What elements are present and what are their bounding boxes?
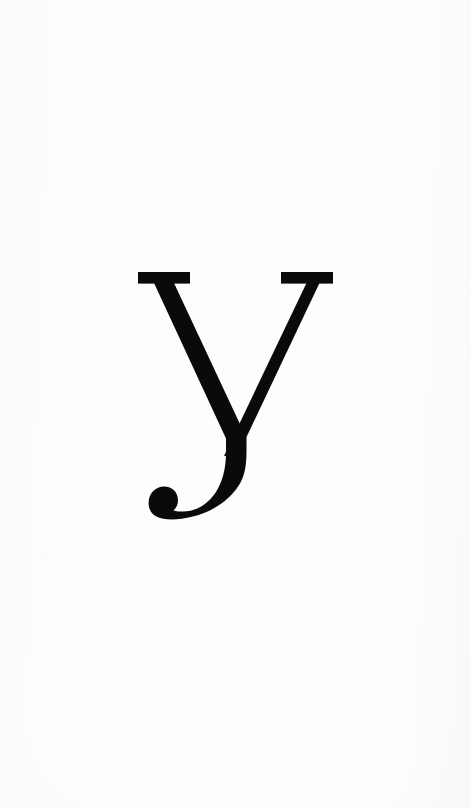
letter-y-glyph	[0, 0, 471, 808]
letter-y-thick-diagonal-stroke	[149, 283, 247, 519]
letter-y-right-serif	[281, 272, 333, 284]
page-canvas: y	[0, 0, 471, 808]
letter-y-left-serif	[138, 272, 190, 284]
letter-y-paths	[138, 272, 333, 519]
glyph-layer: y	[0, 0, 471, 808]
letter-y-thin-diagonal-stroke	[224, 283, 320, 456]
